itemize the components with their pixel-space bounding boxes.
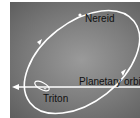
nereid-orbit xyxy=(10,2,140,118)
triton-moon xyxy=(44,87,47,90)
nereid-orbit-arrow-left xyxy=(37,39,42,45)
orbit-diagram-svg xyxy=(10,2,140,118)
nereid-label: Nereid xyxy=(85,14,114,24)
planetary-orbit-label: Planetary orbit xyxy=(79,77,140,87)
orbit-diagram-panel: Nereid Planetary orbit Triton xyxy=(10,2,140,118)
planetary-orbit-arrow xyxy=(12,84,19,90)
triton-orbit xyxy=(33,79,50,93)
triton-label: Triton xyxy=(43,94,68,104)
nereid-orbit-marker-top xyxy=(78,13,81,16)
